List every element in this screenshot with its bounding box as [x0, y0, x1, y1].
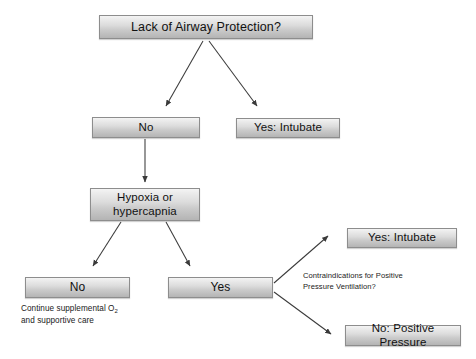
flowchart-canvas: Lack of Airway Protection? No Yes: Intub…: [0, 0, 476, 359]
edge-hypoxia-to-no2: [93, 222, 121, 266]
caption-line-2: and supportive care: [21, 316, 94, 325]
edge-hypoxia-to-yes2: [166, 222, 190, 266]
node-label: Lack of Airway Protection?: [127, 20, 285, 35]
node-label: Yes: [207, 280, 235, 294]
caption-contraindications: Contraindications for Positive Pressure …: [303, 271, 428, 293]
edge-yes2-to-no-positive-pressure: [274, 292, 331, 334]
node-label: Yes: Intubate: [250, 121, 326, 135]
node-label: No: Positive Pressure: [346, 322, 460, 349]
node-label: No: [135, 121, 158, 135]
node-lack-of-airway-protection[interactable]: Lack of Airway Protection?: [99, 15, 313, 39]
node-yes-hypoxia[interactable]: Yes: [168, 277, 273, 298]
node-label: Hypoxia or hypercapnia: [91, 191, 199, 218]
node-no-hypoxia[interactable]: No: [25, 277, 130, 298]
subscript-two: 2: [115, 308, 118, 314]
edge-root-to-yes-intubate: [209, 41, 257, 106]
node-no-airway-protection[interactable]: No: [92, 117, 200, 138]
node-no-positive-pressure[interactable]: No: Positive Pressure: [345, 325, 461, 346]
node-yes-intubate-contraindications[interactable]: Yes: Intubate: [347, 228, 457, 248]
edge-root-to-no: [166, 41, 203, 106]
caption-supportive-care: Continue supplemental O2and supportive c…: [21, 303, 146, 326]
node-label: Yes: Intubate: [364, 231, 440, 245]
node-label: No: [66, 280, 90, 294]
caption-line-1: Continue supplemental O: [21, 304, 115, 313]
node-hypoxia-or-hypercapnia[interactable]: Hypoxia or hypercapnia: [90, 188, 200, 221]
node-yes-intubate-airway[interactable]: Yes: Intubate: [236, 118, 340, 138]
